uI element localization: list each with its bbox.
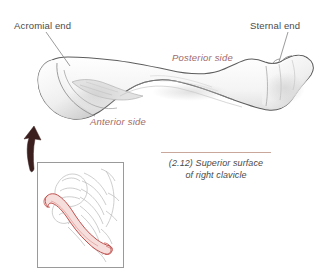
inset-clavicle-highlight bbox=[44, 194, 112, 255]
figure-caption: (2.12) Superior surface of right clavicl… bbox=[158, 152, 274, 181]
caption-rule bbox=[161, 152, 271, 153]
inset-drawing bbox=[38, 163, 123, 267]
label-anterior-side: Anterior side bbox=[90, 116, 146, 127]
label-acromial-end: Acromial end bbox=[14, 20, 71, 31]
leader-line-sternal bbox=[279, 32, 288, 62]
clavicle-body bbox=[38, 55, 313, 119]
leader-line-acromial bbox=[46, 32, 70, 66]
shoulder-girdle-inset bbox=[37, 162, 124, 268]
caption-line-1: (2.12) Superior surface bbox=[158, 157, 274, 169]
label-sternal-end: Sternal end bbox=[250, 20, 300, 31]
label-posterior-side: Posterior side bbox=[172, 52, 233, 63]
figure-canvas: Acromial end Sternal end Posterior side … bbox=[0, 0, 328, 275]
caption-line-2: of right clavicle bbox=[158, 169, 274, 181]
